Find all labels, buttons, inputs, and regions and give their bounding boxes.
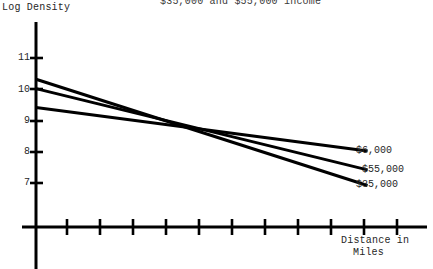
plot-area [0,0,433,269]
series-label-35000: $35,000 [356,180,398,190]
series-label-55000: $55,000 [362,165,404,175]
x-axis-title-line-1: Distance in [341,235,409,246]
x-axis-title-line-2: Miles [353,247,384,258]
series-label-6000: $6,000 [356,146,392,156]
series-line-35000 [36,79,368,185]
series-line-6000 [36,107,368,151]
chart-screenshot: $35,000 and $55,000 income Log Density 1… [0,0,433,269]
